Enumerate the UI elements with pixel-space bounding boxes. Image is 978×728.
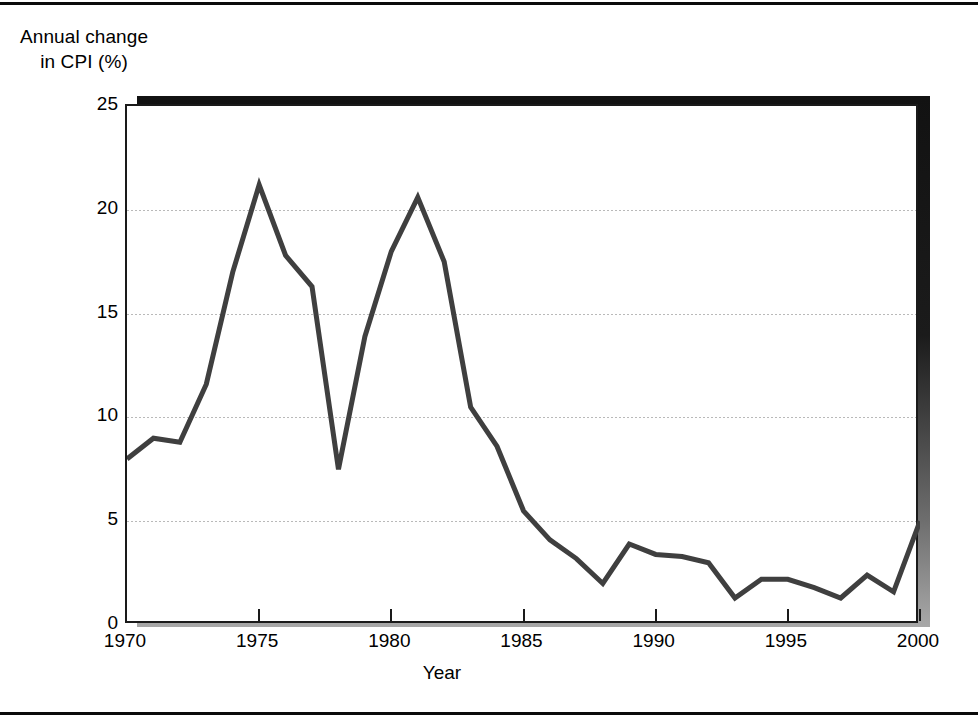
y-axis-caption-line1: Annual change — [20, 24, 148, 49]
bottom-divider-rule — [0, 712, 978, 715]
x-tick-label-1995: 1995 — [765, 630, 807, 652]
x-tick-label-2000: 2000 — [897, 630, 939, 652]
y-tick-label-5: 5 — [78, 508, 118, 530]
series-line-0 — [127, 185, 920, 598]
x-axis-tick-labels: 1970197519801985199019952000 — [125, 630, 918, 660]
y-tick-label-15: 15 — [78, 301, 118, 323]
y-axis-tick-labels: 0510152025 — [70, 104, 118, 623]
series-layer — [127, 106, 920, 625]
x-tick-label-1985: 1985 — [500, 630, 542, 652]
y-tick-label-25: 25 — [78, 93, 118, 115]
x-tick-label-1990: 1990 — [633, 630, 675, 652]
top-divider-rule — [0, 2, 978, 5]
y-tick-label-10: 10 — [78, 404, 118, 426]
y-tick-label-20: 20 — [78, 197, 118, 219]
y-axis-caption-line2: in CPI (%) — [20, 49, 148, 74]
x-tick-label-1975: 1975 — [236, 630, 278, 652]
plot-inner — [127, 106, 916, 621]
plot-area — [125, 104, 918, 623]
y-axis-caption: Annual change in CPI (%) — [20, 24, 148, 74]
x-axis-title-text: Year — [423, 662, 461, 683]
x-tick-label-1980: 1980 — [368, 630, 410, 652]
chart-figure: Annual change in CPI (%) 0510152025 1970… — [0, 0, 978, 728]
x-tick-label-1970: 1970 — [104, 630, 146, 652]
x-axis-title: Year — [0, 662, 978, 684]
